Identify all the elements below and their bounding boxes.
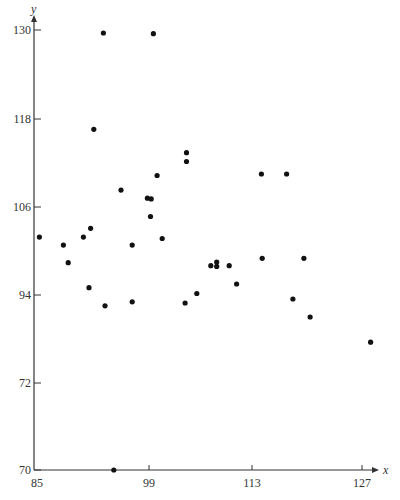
data-point xyxy=(91,127,96,132)
data-point xyxy=(160,236,165,241)
y-tick-label: 72 xyxy=(19,376,31,390)
data-point xyxy=(194,291,199,296)
x-tick-label: 99 xyxy=(143,476,155,490)
y-tick-label: 118 xyxy=(13,112,31,126)
data-point xyxy=(66,260,71,265)
data-point xyxy=(86,285,91,290)
data-point xyxy=(151,31,156,36)
data-point xyxy=(118,188,123,193)
data-point xyxy=(214,264,219,269)
data-point xyxy=(111,467,116,472)
x-axis-arrow-icon xyxy=(372,467,379,473)
y-tick-label: 106 xyxy=(13,200,31,214)
data-point xyxy=(308,314,313,319)
data-point xyxy=(88,226,93,231)
y-tick-label: 70 xyxy=(19,463,31,477)
data-point xyxy=(184,159,189,164)
x-tick-label: 127 xyxy=(353,476,371,490)
data-point xyxy=(260,256,265,261)
data-point xyxy=(149,196,154,201)
y-ticks: 707294106118130 xyxy=(13,23,41,477)
data-point xyxy=(234,281,239,286)
x-tick-label: 113 xyxy=(243,476,261,490)
data-point xyxy=(284,171,289,176)
data-point xyxy=(130,243,135,248)
data-point xyxy=(290,296,295,301)
data-point xyxy=(183,300,188,305)
y-tick-label: 130 xyxy=(13,23,31,37)
x-tick-label: 85 xyxy=(31,476,43,490)
y-axis-arrow-icon xyxy=(31,15,37,22)
data-point xyxy=(148,214,153,219)
data-point xyxy=(155,173,160,178)
data-point xyxy=(101,30,106,35)
y-tick-label: 94 xyxy=(19,288,31,302)
data-point xyxy=(130,299,135,304)
y-axis-label: y xyxy=(30,2,37,16)
data-point xyxy=(259,171,264,176)
data-point xyxy=(301,256,306,261)
data-point xyxy=(81,235,86,240)
data-point xyxy=(208,263,213,268)
data-point xyxy=(102,303,107,308)
data-point xyxy=(227,263,232,268)
scatter-plot: y x 707294106118130 8599113127 xyxy=(0,0,400,500)
data-point xyxy=(184,150,189,155)
x-axis-label: x xyxy=(382,463,389,477)
data-point xyxy=(37,235,42,240)
data-point xyxy=(368,340,373,345)
x-ticks: 8599113127 xyxy=(31,465,371,490)
data-point xyxy=(61,243,66,248)
data-points xyxy=(37,30,373,472)
